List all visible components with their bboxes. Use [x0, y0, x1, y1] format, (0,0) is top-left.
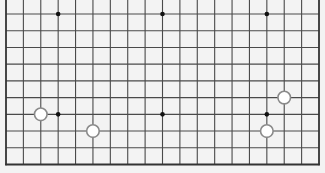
- star-point-icon: [265, 12, 270, 17]
- go-board[interactable]: [0, 0, 325, 173]
- star-point-icon: [160, 12, 165, 17]
- star-point-icon: [265, 112, 270, 117]
- white-stone-icon[interactable]: [87, 125, 100, 138]
- star-point-icon: [56, 12, 61, 17]
- grid-lines: [6, 0, 319, 165]
- star-point-icon: [160, 112, 165, 117]
- white-stone-icon[interactable]: [278, 91, 291, 104]
- go-board-grid[interactable]: [0, 0, 325, 173]
- white-stone-icon[interactable]: [34, 108, 47, 121]
- star-point-icon: [56, 112, 61, 117]
- white-stone-icon[interactable]: [261, 125, 274, 138]
